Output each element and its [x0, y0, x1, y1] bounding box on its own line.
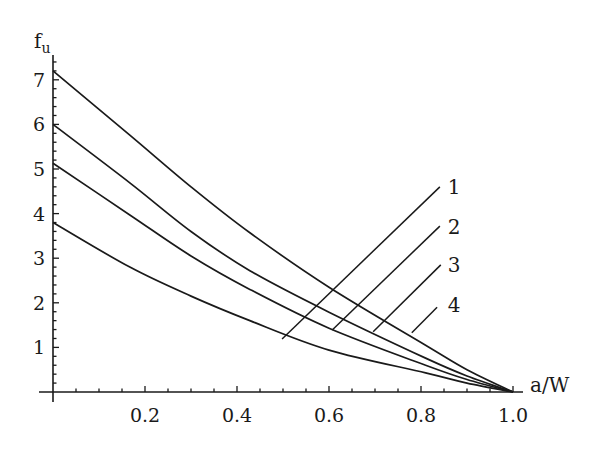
minor-ticks	[53, 62, 513, 392]
curve-label-2: 2	[448, 215, 461, 239]
curve-label-3: 3	[448, 253, 461, 277]
y-tick-label: 5	[33, 158, 45, 180]
x-tick-label: 0.6	[314, 404, 344, 426]
leader-line-3	[373, 265, 441, 332]
chart: 0.20.40.60.81.01234567 1234 fu a/W	[0, 0, 608, 451]
x-tick-label: 1.0	[498, 404, 528, 426]
curve-3	[53, 163, 513, 392]
x-tick-label: 0.4	[222, 404, 252, 426]
leader-line-1	[282, 187, 440, 339]
curve-label-1: 1	[448, 175, 461, 199]
curves	[53, 71, 513, 392]
x-axis-label: a/W	[530, 373, 570, 397]
curve-label-4: 4	[448, 293, 461, 317]
y-tick-label: 4	[33, 203, 45, 225]
tick-labels: 0.20.40.60.81.01234567	[33, 69, 528, 426]
x-tick-label: 0.2	[130, 404, 160, 426]
curve-1	[53, 71, 513, 392]
y-tick-label: 1	[33, 336, 45, 358]
y-axis-label: fu	[34, 29, 50, 56]
curve-labels: 1234	[282, 175, 460, 339]
x-tick-label: 0.8	[406, 404, 436, 426]
y-tick-label: 6	[33, 113, 45, 135]
leader-line-4	[412, 307, 437, 332]
y-tick-label: 2	[33, 292, 45, 314]
y-tick-label: 7	[33, 69, 45, 91]
leader-line-2	[332, 226, 440, 330]
y-tick-label: 3	[33, 247, 45, 269]
curve-2	[53, 124, 513, 392]
